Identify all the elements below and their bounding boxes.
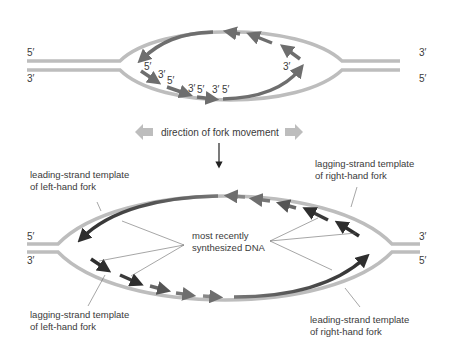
- top-replication-bubble: 5′ 3′ 3′ 5′ 5′ 3′ 5′ 3′ 5′ 3′ 5′ 3′: [27, 32, 427, 100]
- bottom-okazaki-fragment: [150, 286, 165, 290]
- bottom-left-3prime-label: 3′: [27, 255, 35, 266]
- right-arrow-icon: [285, 124, 303, 140]
- bottom-okazaki-fragment: [308, 210, 328, 220]
- top-template-strand-upper: [27, 32, 400, 61]
- top-okazaki-fragment: [229, 32, 240, 34]
- top-okazaki-fragment: [197, 97, 213, 99]
- bottom-left-5prime-label: 5′: [27, 231, 35, 242]
- bottom-okazaki-fragment: [255, 199, 270, 201]
- top-right-5prime-label: 5′: [419, 73, 427, 84]
- callout-leading-right: of right-hand fork: [310, 326, 382, 337]
- top-left-5prime-label: 5′: [27, 47, 35, 58]
- callout-lagging-right: lagging-strand template: [315, 158, 414, 169]
- bottom-replication-bubble: 5′ 3′ 3′ 5′ most recently synthesized DN…: [27, 158, 427, 337]
- top-okazaki-fragment: [141, 71, 156, 81]
- okazaki-end-label: 5′: [167, 75, 175, 86]
- bottom-okazaki-fragment: [120, 275, 138, 283]
- replication-bubble-diagram: 5′ 3′ 3′ 5′ 5′ 3′ 5′ 3′ 5′ 3′ 5′ 3′ dire…: [0, 0, 452, 350]
- okazaki-end-label: 3′: [188, 83, 196, 94]
- most-recently-synthesized-label: synthesized DNA: [192, 242, 266, 253]
- bottom-okazaki-fragment: [176, 293, 190, 295]
- okazaki-end-label: 5′: [222, 84, 230, 95]
- bottom-okazaki-fragment: [282, 204, 296, 208]
- top-left-3prime-label: 3′: [27, 73, 35, 84]
- bottom-okazaki-fragment: [91, 259, 106, 269]
- fork-direction-indicator: direction of fork movement: [135, 124, 303, 165]
- callout-leading-right: leading-strand template: [310, 314, 409, 325]
- top-okazaki-fragment: [252, 35, 272, 43]
- leading-3prime-label: 3′: [283, 61, 291, 72]
- okazaki-end-label: 3′: [158, 69, 166, 80]
- bottom-right-leading-strand: [234, 258, 365, 297]
- most-recently-synthesized-label: most recently: [192, 230, 249, 241]
- bottom-right-3prime-label: 3′: [419, 231, 427, 242]
- callout-leading-left: leading-strand template: [30, 169, 129, 180]
- bottom-right-5prime-label: 5′: [419, 255, 427, 266]
- okazaki-end-label: 3′: [212, 84, 220, 95]
- bottom-okazaki-fragment: [203, 296, 217, 297]
- top-okazaki-fragment: [285, 48, 300, 59]
- bottom-okazaki-fragment: [230, 196, 245, 197]
- callout-lagging-left: lagging-strand template: [30, 309, 129, 320]
- direction-label: direction of fork movement: [161, 127, 279, 138]
- top-left-leading-strand: [142, 32, 213, 59]
- callout-leading-left: of left-hand fork: [30, 181, 96, 192]
- callout-lagging-right: of right-hand fork: [315, 170, 387, 181]
- okazaki-end-label: 5′: [197, 84, 205, 95]
- callout-lagging-left: of left-hand fork: [30, 321, 96, 332]
- left-arrow-icon: [135, 124, 153, 140]
- top-right-3prime-label: 3′: [419, 47, 427, 58]
- okazaki-end-label: 5′: [144, 61, 152, 72]
